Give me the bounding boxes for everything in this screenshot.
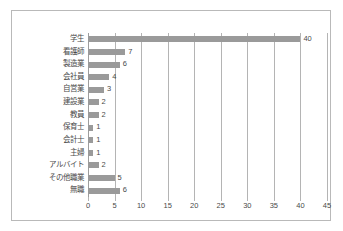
category-label: 主婦	[70, 147, 84, 160]
bar-value-label: 2	[102, 159, 106, 172]
category-label: 会計士	[63, 134, 84, 147]
bar-row: 保育士1	[88, 121, 327, 134]
bar	[88, 74, 109, 80]
x-tick-label-15: 15	[163, 201, 171, 210]
bar-row: 教員2	[88, 109, 327, 122]
bar-value-label: 40	[303, 33, 311, 46]
x-axis-tick-labels: 051015202530354045	[88, 201, 327, 215]
bar-row: 会社員4	[88, 71, 327, 84]
x-tick-label-40: 40	[296, 201, 304, 210]
plot-area: 学生40看護師7製造業6会社員4自営業3建設業2教員2保育士1会計士1主婦1アル…	[88, 33, 327, 197]
bar-rows: 学生40看護師7製造業6会社員4自営業3建設業2教員2保育士1会計士1主婦1アル…	[88, 33, 327, 197]
gridline-45	[327, 33, 328, 197]
bar	[88, 137, 93, 143]
x-tick-label-0: 0	[86, 201, 90, 210]
bar-row: 看護師7	[88, 46, 327, 59]
bar-value-label: 4	[112, 71, 116, 84]
category-label: 無職	[70, 184, 84, 197]
bar	[88, 150, 93, 156]
bar-value-label: 2	[102, 109, 106, 122]
category-label: 製造業	[63, 58, 84, 71]
chart-figure: 学生40看護師7製造業6会社員4自営業3建設業2教員2保育士1会計士1主婦1アル…	[0, 0, 343, 231]
figure-frame: 学生40看護師7製造業6会社員4自営業3建設業2教員2保育士1会計士1主婦1アル…	[11, 10, 331, 221]
x-tick-label-45: 45	[323, 201, 331, 210]
bar-row: 製造業6	[88, 58, 327, 71]
category-label: 看護師	[63, 46, 84, 59]
bar-row: 会計士1	[88, 134, 327, 147]
category-label: 教員	[70, 109, 84, 122]
bar	[88, 188, 120, 194]
bar-row: 学生40	[88, 33, 327, 46]
bar	[88, 175, 115, 181]
category-label: 保育士	[63, 121, 84, 134]
x-tick-label-25: 25	[217, 201, 225, 210]
bar	[88, 87, 104, 93]
category-label: 会社員	[63, 71, 84, 84]
bar-value-label: 1	[96, 147, 100, 160]
bar-value-label: 3	[107, 83, 111, 96]
category-label: 学生	[70, 33, 84, 46]
x-tick-label-20: 20	[190, 201, 198, 210]
bar-value-label: 2	[102, 96, 106, 109]
x-tick-label-35: 35	[270, 201, 278, 210]
bar-value-label: 5	[118, 172, 122, 185]
category-label: 自営業	[63, 83, 84, 96]
bar-row: 建設業2	[88, 96, 327, 109]
bar-value-label: 1	[96, 134, 100, 147]
bar-value-label: 1	[96, 121, 100, 134]
category-label: 建設業	[63, 96, 84, 109]
bar-row: その他職業5	[88, 172, 327, 185]
bar	[88, 99, 99, 105]
bar	[88, 162, 99, 168]
bar-value-label: 6	[123, 184, 127, 197]
bar	[88, 49, 125, 55]
bar-row: 自営業3	[88, 83, 327, 96]
x-tick-label-30: 30	[243, 201, 251, 210]
category-label: アルバイト	[49, 159, 84, 172]
bar-row: 無職6	[88, 184, 327, 197]
bar	[88, 62, 120, 68]
bar	[88, 112, 99, 118]
bar-row: 主婦1	[88, 147, 327, 160]
bar	[88, 125, 93, 131]
x-tick-label-5: 5	[112, 201, 116, 210]
x-tick-label-10: 10	[137, 201, 145, 210]
bar-value-label: 6	[123, 58, 127, 71]
category-label: その他職業	[49, 172, 84, 185]
bar-value-label: 7	[128, 46, 132, 59]
bar	[88, 36, 300, 42]
bar-row: アルバイト2	[88, 159, 327, 172]
